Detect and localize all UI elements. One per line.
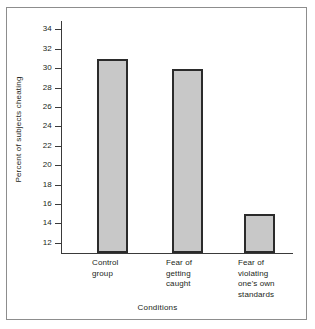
x-axis-line <box>61 253 293 254</box>
bar <box>244 214 275 253</box>
x-axis-category-label: Fear of getting caught <box>166 258 192 290</box>
x-axis-category-label: Control group <box>92 258 119 279</box>
y-axis-tick <box>55 68 62 69</box>
y-axis-tick <box>55 126 62 127</box>
y-axis-tick-label: 26 <box>28 103 52 111</box>
x-axis-title: Conditions <box>0 303 315 312</box>
y-axis-line <box>61 21 62 254</box>
y-axis-tick <box>55 185 62 186</box>
y-axis-tick <box>55 204 62 205</box>
y-axis-tick <box>55 49 62 50</box>
y-axis-tick-label: 12 <box>28 239 52 247</box>
y-axis-tick-label: 18 <box>28 181 52 189</box>
y-axis-tick-label: 14 <box>28 219 52 227</box>
y-axis-tick-label: 24 <box>28 122 52 130</box>
y-axis-tick-label: 28 <box>28 84 52 92</box>
y-axis-tick <box>55 88 62 89</box>
y-axis-tick <box>55 29 62 30</box>
y-axis-tick-label: 16 <box>28 200 52 208</box>
y-axis-tick <box>55 146 62 147</box>
y-axis-tick-label: 22 <box>28 142 52 150</box>
y-axis-tick <box>55 165 62 166</box>
y-axis-tick <box>55 243 62 244</box>
y-axis-tick-label: 20 <box>28 161 52 169</box>
y-axis-tick-labels: 121416182022242628303234 <box>26 0 52 329</box>
bar <box>97 59 128 253</box>
y-axis-tick <box>55 107 62 108</box>
bar <box>172 69 203 253</box>
y-axis-title: Percent of subjects cheating <box>14 50 23 210</box>
y-axis-tick-label: 32 <box>28 45 52 53</box>
x-axis-category-label: Fear of violating one's own standards <box>238 258 275 300</box>
y-axis-tick-label: 30 <box>28 64 52 72</box>
y-axis-tick-label: 34 <box>28 25 52 33</box>
y-axis-tick <box>55 223 62 224</box>
